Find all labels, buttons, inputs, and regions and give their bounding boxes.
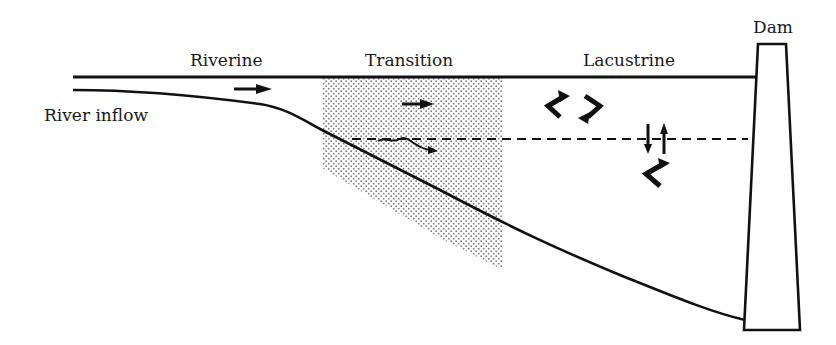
zone-label-transition: Transition (365, 52, 453, 69)
dam-structure (744, 44, 800, 330)
river-inflow-label: River inflow (44, 107, 148, 124)
transition-zone-shading (322, 78, 503, 270)
mixing-cycle-arrow-icon (548, 90, 600, 124)
dam-label: Dam (753, 19, 793, 36)
zone-label-lacustrine: Lacustrine (583, 52, 675, 69)
zone-label-riverine: Riverine (190, 52, 262, 69)
return-flow-arrow-icon (646, 158, 670, 186)
riverine-flow-arrow-icon (234, 84, 272, 94)
